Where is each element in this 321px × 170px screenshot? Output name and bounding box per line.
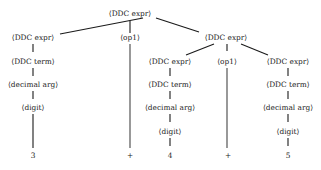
node-rl-ddc-expr: ⟨DDC expr⟩ — [149, 58, 191, 65]
node-left-ddc-term: ⟨DDC term⟩ — [11, 58, 55, 65]
node-left-decimal-arg: ⟨decimal arg⟩ — [8, 81, 58, 88]
leaf-5: 5 — [286, 152, 291, 159]
leaf-3: 3 — [31, 152, 36, 159]
edge-r-left — [186, 44, 214, 55]
node-root-ddc-expr: ⟨DDC expr⟩ — [109, 10, 151, 17]
node-left-digit: ⟨digit⟩ — [22, 104, 45, 111]
node-rr-ddc-expr: ⟨DDC expr⟩ — [267, 58, 309, 65]
node-rl-decimal-arg: ⟨decimal arg⟩ — [145, 104, 195, 111]
node-rl-digit: ⟨digit⟩ — [159, 128, 182, 135]
node-r-op1: ⟨op1⟩ — [217, 58, 237, 65]
leaf-4: 4 — [168, 152, 173, 159]
node-left-ddc-expr: ⟨DDC expr⟩ — [12, 34, 54, 41]
node-op1: ⟨op1⟩ — [120, 34, 140, 41]
leaf-plus-1: + — [127, 152, 133, 159]
node-rl-ddc-term: ⟨DDC term⟩ — [148, 81, 192, 88]
leaf-plus-2: + — [225, 152, 231, 159]
edge-root-right — [156, 18, 199, 32]
edge-r-right — [241, 44, 268, 55]
node-rr-digit: ⟨digit⟩ — [277, 128, 300, 135]
node-right-ddc-expr: ⟨DDC expr⟩ — [205, 34, 247, 41]
node-rr-decimal-arg: ⟨decimal arg⟩ — [263, 104, 313, 111]
node-rr-ddc-term: ⟨DDC term⟩ — [266, 81, 310, 88]
